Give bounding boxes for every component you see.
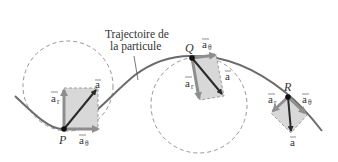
point-r-dot [285,94,291,100]
p-a-label: a [95,78,101,90]
svg-text:a: a [51,92,56,104]
r-a-label: a [290,136,296,148]
point-p-label: P [58,133,67,147]
svg-text:r: r [191,82,194,91]
q-a-label: a [225,70,231,82]
point-q-dot [189,55,195,61]
q-ar-label: a r [185,77,194,91]
p-ar-label: a r [51,92,60,106]
trajectory-curve [15,56,322,131]
svg-text:a: a [202,38,207,50]
r-ar-label: a r [268,93,277,107]
svg-text:θ: θ [308,98,312,107]
point-p-group: P a r a a θ [51,78,101,148]
trajectory-caption-line2: la particule [110,40,161,53]
point-q-label: Q [185,41,194,55]
svg-text:a: a [225,70,230,82]
svg-text:a: a [95,78,100,90]
r-atheta-label: a θ [302,93,312,107]
trajectory-diagram: Trajectoire de la particule P a r a a θ [0,0,338,162]
point-p-dot [61,126,67,132]
svg-text:θ: θ [85,139,89,148]
svg-text:a: a [79,134,84,146]
svg-text:a: a [302,93,307,105]
svg-text:θ: θ [208,43,212,52]
point-q-group: Q a θ a r a [185,38,231,100]
point-r-group: R a r a θ a [268,80,312,148]
svg-text:a: a [290,136,295,148]
svg-text:a: a [268,93,273,105]
point-r-label: R [283,80,292,94]
svg-text:a: a [185,77,190,89]
p-atheta-label: a θ [79,134,89,148]
svg-text:r: r [57,97,60,106]
q-atheta-label: a θ [202,38,212,52]
